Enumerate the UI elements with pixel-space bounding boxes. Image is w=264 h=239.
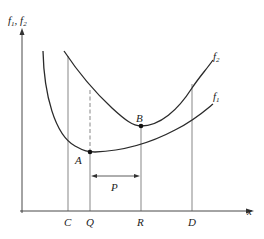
interval-p (91, 174, 140, 178)
x-tick-r: R (136, 216, 144, 228)
x-tick-q: Q (86, 216, 94, 228)
curve-f1-label: f1 (213, 90, 220, 104)
x-axis-label: x (246, 205, 252, 217)
x-tick-c: C (64, 216, 72, 228)
y-axis-label: f1, f2 (8, 14, 27, 28)
curve-f1 (43, 51, 213, 152)
reference-lines (68, 56, 192, 211)
point-b-label: B (136, 112, 143, 124)
arrow-right-icon (134, 174, 140, 178)
x-tick-d: D (187, 216, 196, 228)
f1-f2-diagram: f1, f2 f2 f1 A B P C Q R D x (0, 0, 264, 239)
curve-f2-label: f2 (213, 50, 220, 64)
curves (43, 51, 213, 152)
interval-p-label: P (110, 181, 118, 193)
point-a-label: A (74, 154, 82, 166)
point-a (88, 150, 93, 155)
arrow-left-icon (91, 174, 97, 178)
point-b (139, 124, 144, 129)
y-axis-arrow-icon (20, 28, 25, 35)
